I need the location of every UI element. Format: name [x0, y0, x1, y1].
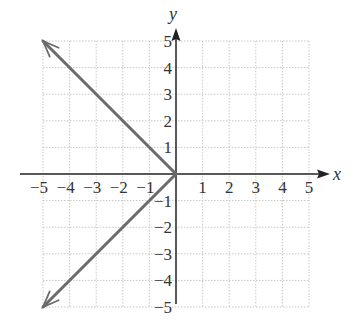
y-tick-label: −5 — [154, 298, 172, 317]
axes: x y — [20, 4, 341, 304]
y-tick-label: 4 — [164, 59, 173, 78]
x-tick-label: −1 — [136, 178, 154, 197]
x-axis-label: x — [332, 164, 341, 184]
x-tick-label: −3 — [83, 178, 101, 197]
x-tick-label: −2 — [110, 178, 128, 197]
y-tick-label: −2 — [154, 218, 172, 237]
x-tick-label: 1 — [198, 178, 207, 197]
y-tick-label: −4 — [154, 271, 173, 290]
x-tick-label: 3 — [252, 178, 261, 197]
x-tick-label: −5 — [30, 178, 48, 197]
x-tick-label: 5 — [305, 178, 314, 197]
x-tick-label: 2 — [225, 178, 234, 197]
y-tick-label: −3 — [154, 245, 172, 264]
ray-line-0 — [43, 41, 176, 174]
y-tick-label: 2 — [164, 112, 173, 131]
x-tick-label: −4 — [57, 178, 76, 197]
y-tick-label: 3 — [164, 85, 173, 104]
x-tick-label: 4 — [278, 178, 287, 197]
y-tick-label: 5 — [164, 32, 173, 51]
y-tick-label: 1 — [164, 138, 173, 157]
y-axis-label: y — [167, 4, 177, 24]
graph-canvas: x y −5−4−3−2−11234554321−1−2−3−4−5 — [0, 0, 353, 327]
